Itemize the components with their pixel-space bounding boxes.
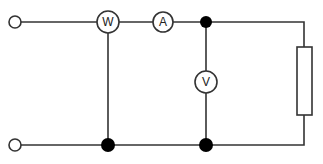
junction-bottom-right-icon bbox=[199, 138, 213, 152]
resistor-load-icon bbox=[297, 47, 312, 115]
wattmeter: W bbox=[97, 11, 119, 33]
terminal-top-icon bbox=[9, 16, 21, 28]
voltmeter-label: V bbox=[202, 75, 210, 89]
wattmeter-label: W bbox=[102, 15, 114, 29]
ammeter: A bbox=[153, 12, 173, 32]
ammeter-label: A bbox=[159, 15, 167, 29]
circuit-diagram: W A V bbox=[0, 0, 323, 164]
terminal-bottom-icon bbox=[9, 139, 21, 151]
junction-bottom-left-icon bbox=[101, 138, 115, 152]
wire-top-to-load bbox=[206, 22, 304, 47]
junction-top-right-icon bbox=[200, 16, 212, 28]
voltmeter: V bbox=[195, 71, 217, 93]
wire-load-to-bottom bbox=[206, 115, 304, 145]
wires bbox=[21, 22, 304, 145]
